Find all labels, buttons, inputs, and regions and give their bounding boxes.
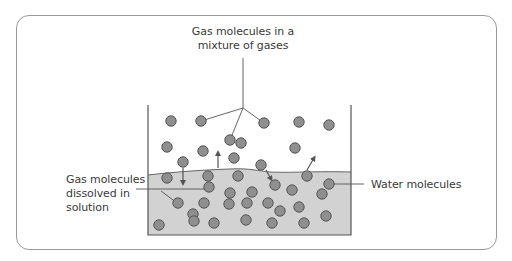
water-molecule <box>204 182 214 192</box>
dissolved-gas-label-line3: solution <box>66 201 146 215</box>
water-molecule <box>242 198 252 208</box>
water-molecule <box>203 171 213 181</box>
gas-molecule <box>256 160 266 170</box>
water-molecule <box>233 171 243 181</box>
water-molecule <box>225 188 235 198</box>
gas-label-pointer <box>201 58 264 140</box>
dissolved-gas-label-line1: Gas molecules <box>66 173 146 187</box>
gas-molecule <box>162 142 172 152</box>
gas-molecule <box>198 146 208 156</box>
gas-molecule <box>236 138 246 148</box>
water-molecule <box>199 198 209 208</box>
water-molecule <box>294 202 304 212</box>
water-molecule <box>324 179 334 189</box>
gas-molecule <box>294 117 304 127</box>
water-molecule <box>263 198 273 208</box>
water-molecule <box>321 211 331 221</box>
water-molecule <box>267 218 277 228</box>
water-molecule <box>275 206 285 216</box>
water-molecule <box>270 180 280 190</box>
water-molecule <box>224 199 234 209</box>
water-molecule <box>247 187 257 197</box>
gas-molecule <box>290 143 300 153</box>
gas-molecule <box>229 153 239 163</box>
water-molecules-label: Water molecules <box>371 178 481 192</box>
gas-molecule <box>166 116 176 126</box>
gas-molecule <box>324 120 334 130</box>
gas-molecule <box>259 118 269 128</box>
water-molecule <box>302 171 312 181</box>
water-molecule <box>209 218 219 228</box>
gas-molecule <box>225 135 235 145</box>
water-molecule <box>287 185 297 195</box>
gas-mixture-label-line1: Gas molecules in a <box>183 25 303 39</box>
dissolved-gas-label: Gas molecules dissolved in solution <box>66 173 146 215</box>
gas-molecule <box>178 157 188 167</box>
dissolved-gas-label-line2: dissolved in <box>66 187 146 201</box>
arrow-up-icon <box>307 158 314 170</box>
water-molecule <box>189 216 199 226</box>
gas-molecule <box>196 116 206 126</box>
water-molecule <box>162 173 172 183</box>
water-molecules-label-line1: Water molecules <box>371 178 481 192</box>
water-molecule <box>154 220 164 230</box>
gas-mixture-label: Gas molecules in a mixture of gases <box>183 25 303 53</box>
water-molecule <box>241 215 251 225</box>
gas-mixture-label-line2: mixture of gases <box>183 39 303 53</box>
water-molecule <box>299 218 309 228</box>
water-molecule <box>173 198 183 208</box>
water-molecule <box>317 189 327 199</box>
